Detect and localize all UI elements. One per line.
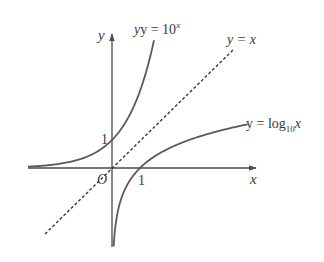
exponential-label: yy = 10x — [132, 20, 180, 37]
identity-label-text: y = x — [225, 32, 257, 47]
x-tick-label: 1 — [138, 173, 145, 188]
exponential-curve — [28, 40, 154, 166]
identity-label: y = x — [225, 32, 257, 47]
exponential-label-exponent: x — [175, 20, 180, 30]
logarithm-curve — [114, 124, 248, 246]
identity-line — [45, 49, 234, 234]
logarithm-label: y = log10x — [246, 116, 302, 134]
y-axis-label: y — [96, 27, 105, 43]
x-axis-label: x — [249, 171, 257, 187]
logarithm-label-base: y = log — [246, 116, 286, 131]
y-tick-label: 1 — [101, 132, 108, 147]
logarithm-label-variable: x — [294, 116, 302, 131]
function-graph: y x O 1 1 yy = 10x y = x y = log10x — [0, 0, 324, 262]
origin-label: O — [97, 172, 107, 187]
exponential-label-base: y = 10 — [140, 22, 176, 37]
